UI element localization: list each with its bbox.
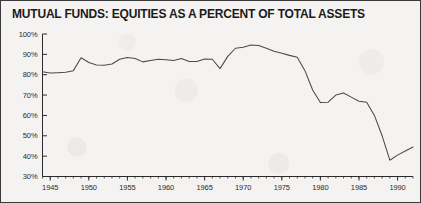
y-axis-tick-label: 100% — [12, 30, 38, 39]
x-axis-tick-label: 1960 — [151, 183, 181, 192]
x-axis-major-ticks — [50, 177, 397, 181]
x-axis-tick-label: 1945 — [35, 183, 65, 192]
x-axis-tick-label: 1950 — [74, 183, 104, 192]
y-axis-tick-label: 60% — [12, 111, 38, 120]
axis-lines — [43, 34, 414, 177]
data-series-line — [43, 45, 414, 160]
y-axis-ticks — [43, 34, 48, 177]
y-axis-tick-label: 90% — [12, 50, 38, 59]
y-axis-tick-label: 40% — [12, 152, 38, 161]
chart-figure: MUTUAL FUNDS: EQUITIES AS A PERCENT OF T… — [0, 0, 421, 203]
y-axis-tick-label: 80% — [12, 70, 38, 79]
x-axis-tick-label: 1970 — [228, 183, 258, 192]
x-axis-tick-label: 1985 — [344, 183, 374, 192]
x-axis-tick-label: 1955 — [112, 183, 142, 192]
x-axis-tick-label: 1965 — [190, 183, 220, 192]
y-axis-tick-label: 50% — [12, 131, 38, 140]
x-axis-tick-label: 1975 — [267, 183, 297, 192]
y-axis-tick-label: 70% — [12, 91, 38, 100]
x-axis-tick-label: 1980 — [305, 183, 335, 192]
y-axis-tick-label: 30% — [12, 172, 38, 181]
chart-plot-area — [1, 1, 421, 203]
x-axis-tick-label: 1990 — [383, 183, 413, 192]
